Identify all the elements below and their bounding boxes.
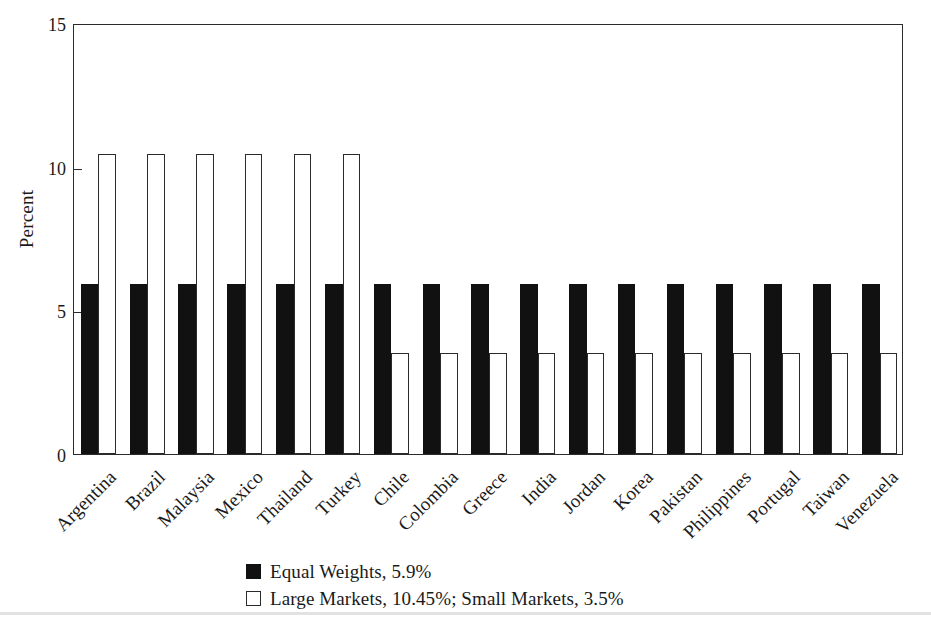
- bar-equal-weights: [764, 284, 782, 454]
- chart-legend: Equal Weights, 5.9%Large Markets, 10.45%…: [246, 558, 624, 612]
- plot-area: 051015: [73, 24, 903, 455]
- bar-equal-weights: [471, 284, 489, 454]
- legend-item: Equal Weights, 5.9%: [246, 558, 624, 585]
- legend-swatch-open-icon: [246, 591, 261, 606]
- x-tick-label: Brazil: [122, 467, 169, 514]
- x-tick-label: Philippines: [680, 467, 755, 542]
- page-edge-artifact: [0, 612, 931, 615]
- bar-equal-weights: [276, 284, 294, 454]
- x-tick-label: Venezuela: [832, 467, 901, 536]
- bar-market-weights: [635, 353, 653, 454]
- bar-equal-weights: [862, 284, 880, 454]
- x-tick-label: Taiwan: [799, 467, 852, 520]
- bar-market-weights: [147, 154, 165, 454]
- x-tick-label: Greece: [459, 467, 511, 519]
- bar-market-weights: [538, 353, 556, 454]
- x-tick-label: Colombia: [395, 467, 462, 534]
- x-tick-label: Chile: [370, 467, 413, 510]
- bar-equal-weights: [667, 284, 685, 454]
- bar-equal-weights: [423, 284, 441, 454]
- bar-market-weights: [294, 154, 312, 454]
- x-tick-label: Korea: [610, 467, 657, 514]
- y-tick-mark: [74, 169, 82, 170]
- bar-equal-weights: [130, 284, 148, 454]
- x-tick-label: Malaysia: [154, 467, 217, 530]
- bar-market-weights: [684, 353, 702, 454]
- bar-equal-weights: [813, 284, 831, 454]
- legend-item: Large Markets, 10.45%; Small Markets, 3.…: [246, 585, 624, 612]
- bar-market-weights: [733, 353, 751, 454]
- legend-swatch-filled-icon: [246, 564, 261, 579]
- y-tick-label: 10: [26, 160, 66, 178]
- bar-market-weights: [587, 353, 605, 454]
- bar-market-weights: [391, 353, 409, 454]
- bar-market-weights: [489, 353, 507, 454]
- bar-equal-weights: [520, 284, 538, 454]
- x-tick-label: Mexico: [211, 467, 266, 522]
- legend-label: Large Markets, 10.45%; Small Markets, 3.…: [270, 585, 624, 612]
- bar-market-weights: [440, 353, 458, 454]
- y-tick-label: 15: [26, 16, 66, 34]
- bar-equal-weights: [227, 284, 245, 454]
- bar-equal-weights: [569, 284, 587, 454]
- bar-equal-weights: [81, 284, 99, 454]
- bar-equal-weights: [716, 284, 734, 454]
- bar-market-weights: [245, 154, 263, 454]
- legend-label: Equal Weights, 5.9%: [270, 558, 432, 585]
- x-tick-label: Pakistan: [646, 467, 706, 527]
- y-tick-label: 0: [26, 447, 66, 465]
- x-tick-label: Portugal: [744, 467, 804, 527]
- bar-equal-weights: [178, 284, 196, 454]
- bar-market-weights: [880, 353, 898, 454]
- bar-market-weights: [98, 154, 116, 454]
- bar-equal-weights: [618, 284, 636, 454]
- y-axis-title: Percent: [16, 169, 38, 269]
- bar-market-weights: [782, 353, 800, 454]
- x-tick-label: India: [518, 467, 559, 508]
- y-tick-label: 5: [26, 303, 66, 321]
- bar-market-weights: [831, 353, 849, 454]
- x-tick-label: Jordan: [558, 467, 608, 517]
- x-tick-label: Argentina: [52, 467, 120, 535]
- bar-market-weights: [196, 154, 214, 454]
- bar-equal-weights: [325, 284, 343, 454]
- x-tick-label: Thailand: [253, 467, 315, 529]
- chart-figure: Percent 051015 ArgentinaBrazilMalaysiaMe…: [0, 0, 931, 621]
- bar-market-weights: [343, 154, 361, 454]
- bar-equal-weights: [374, 284, 392, 454]
- x-tick-label: Turkey: [312, 467, 364, 519]
